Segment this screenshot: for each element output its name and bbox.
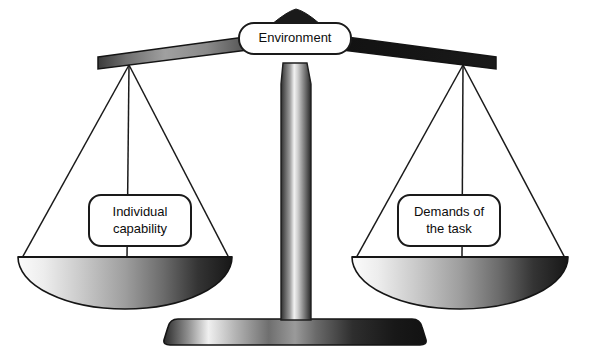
left-pan-dish	[18, 257, 232, 309]
environment-label-box: Environment	[238, 22, 352, 55]
right-pan-dish	[352, 257, 568, 309]
individual-capability-label-box: Individual capability	[88, 194, 192, 247]
balance-scale-diagram: Environment Individual capability Demand…	[0, 0, 590, 363]
demands-of-the-task-label-box: Demands of the task	[397, 194, 501, 247]
individual-capability-label-text: Individual capability	[113, 204, 168, 237]
environment-label-text: Environment	[259, 30, 332, 46]
demands-of-the-task-label-text: Demands of the task	[414, 204, 484, 237]
base-plinth	[164, 319, 426, 345]
center-column	[281, 63, 311, 320]
